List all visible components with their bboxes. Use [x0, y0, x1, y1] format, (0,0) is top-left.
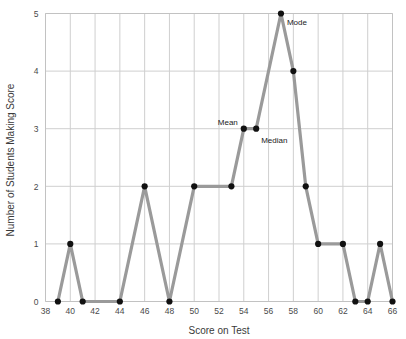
x-axis-tick-labels: 384042444648505254565860626466	[41, 306, 398, 316]
data-point-marker	[315, 241, 321, 247]
y-axis-title: Number of Students Making Score	[5, 83, 16, 236]
data-point-marker	[55, 298, 61, 304]
data-point-marker	[191, 183, 197, 189]
x-tick-label: 42	[90, 306, 100, 316]
data-point-marker	[377, 241, 383, 247]
data-point-marker	[278, 10, 284, 16]
data-point-marker	[80, 298, 86, 304]
x-tick-label: 40	[66, 306, 76, 316]
data-point-marker	[303, 183, 309, 189]
x-tick-label: 56	[264, 306, 274, 316]
x-tick-label: 44	[115, 306, 125, 316]
data-point-marker	[166, 298, 172, 304]
data-point-marker	[352, 298, 358, 304]
x-tick-label: 54	[239, 306, 249, 316]
x-tick-label: 64	[363, 306, 373, 316]
x-tick-label: 58	[289, 306, 299, 316]
data-point-marker	[340, 241, 346, 247]
x-tick-label: 62	[338, 306, 348, 316]
y-tick-label: 2	[34, 182, 39, 192]
y-tick-label: 1	[34, 239, 39, 249]
x-tick-label: 38	[41, 306, 51, 316]
x-tick-label: 52	[214, 306, 224, 316]
data-point-marker	[253, 126, 259, 132]
y-tick-label: 0	[34, 297, 39, 307]
data-point-marker	[67, 241, 73, 247]
annotation-mode: Mode	[287, 18, 308, 27]
chart-container: 384042444648505254565860626466 012345 Me…	[0, 0, 406, 339]
x-tick-label: 46	[140, 306, 150, 316]
data-point-marker	[142, 183, 148, 189]
data-point-marker	[228, 183, 234, 189]
x-tick-label: 66	[388, 306, 398, 316]
data-point-marker	[241, 126, 247, 132]
data-point-marker	[389, 298, 395, 304]
x-tick-label: 60	[313, 306, 323, 316]
test-score-distribution-chart: 384042444648505254565860626466 012345 Me…	[0, 0, 406, 339]
annotation-mean: Mean	[218, 118, 238, 127]
x-tick-label: 50	[189, 306, 199, 316]
x-axis-title: Score on Test	[189, 325, 250, 336]
data-point-marker	[117, 298, 123, 304]
x-tick-label: 48	[165, 306, 175, 316]
annotation-median: Median	[261, 136, 287, 145]
data-point-marker	[365, 298, 371, 304]
data-point-marker	[290, 68, 296, 74]
y-tick-label: 4	[34, 66, 39, 76]
y-tick-label: 5	[34, 9, 39, 19]
y-tick-label: 3	[34, 124, 39, 134]
